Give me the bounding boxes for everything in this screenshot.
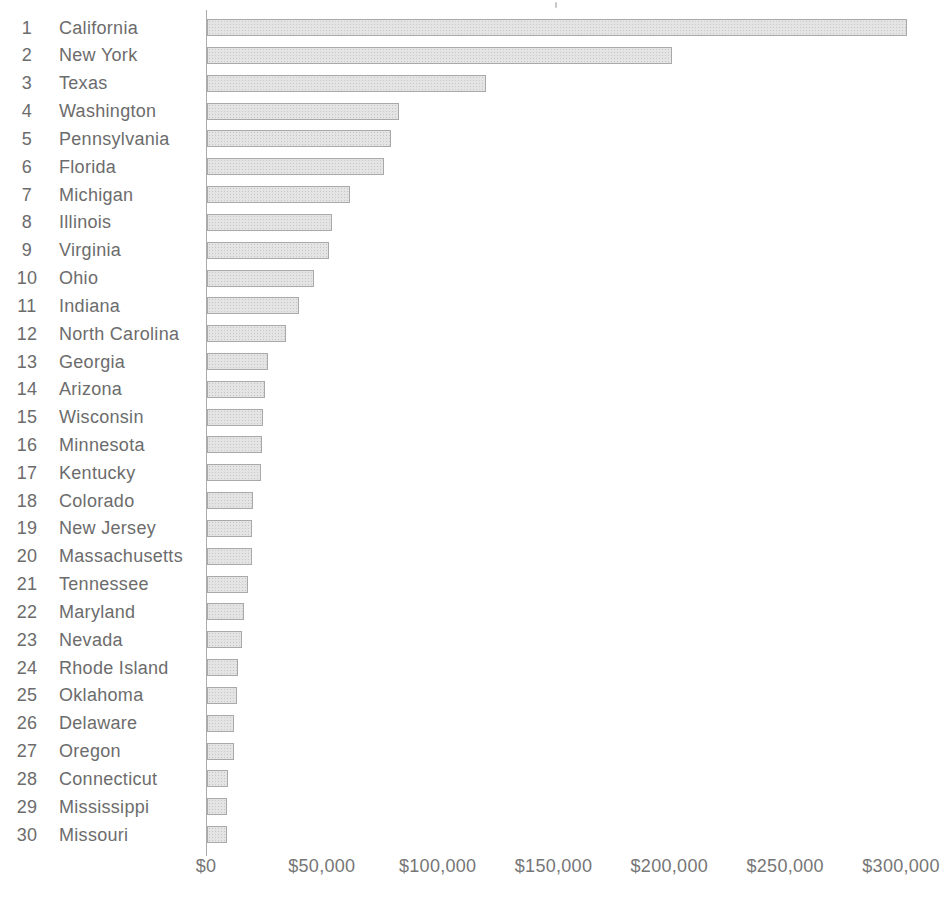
state-label: Maryland xyxy=(59,598,135,626)
chart-row: 5Pennsylvania xyxy=(0,125,948,153)
value-bar xyxy=(207,103,399,120)
chart-row: 6Florida xyxy=(0,153,948,181)
chart-row: 3Texas xyxy=(0,70,948,98)
chart-row: 27Oregon xyxy=(0,738,948,766)
state-label: Connecticut xyxy=(59,765,157,793)
x-axis-tick-label: $0 xyxy=(196,856,217,877)
rank-label: 14 xyxy=(8,376,46,404)
state-label: New York xyxy=(59,42,137,70)
chart-row: 19New Jersey xyxy=(0,515,948,543)
rank-label: 27 xyxy=(8,738,46,766)
state-label: Nevada xyxy=(59,626,123,654)
rank-label: 5 xyxy=(8,125,46,153)
rank-label: 30 xyxy=(8,821,46,849)
value-bar xyxy=(207,464,261,481)
value-bar xyxy=(207,297,299,314)
rank-label: 7 xyxy=(8,181,46,209)
state-label: Missouri xyxy=(59,821,128,849)
chart-row: 25Oklahoma xyxy=(0,682,948,710)
value-bar xyxy=(207,548,252,565)
value-bar xyxy=(207,576,248,593)
ranked-bar-chart: 1California2New York3Texas4Washington5Pe… xyxy=(0,0,948,899)
rank-label: 9 xyxy=(8,237,46,265)
value-bar xyxy=(207,214,332,231)
value-bar xyxy=(207,631,242,648)
rank-label: 18 xyxy=(8,487,46,515)
rank-label: 20 xyxy=(8,543,46,571)
rank-label: 13 xyxy=(8,348,46,376)
state-label: Oregon xyxy=(59,738,121,766)
rank-label: 23 xyxy=(8,626,46,654)
state-label: Arizona xyxy=(59,376,122,404)
value-bar xyxy=(207,158,384,175)
state-label: Michigan xyxy=(59,181,133,209)
value-bar xyxy=(207,353,268,370)
rank-label: 15 xyxy=(8,404,46,432)
rank-label: 8 xyxy=(8,209,46,237)
value-bar xyxy=(207,603,244,620)
state-label: Tennessee xyxy=(59,571,149,599)
value-bar xyxy=(207,798,227,815)
rank-label: 22 xyxy=(8,598,46,626)
chart-row: 30Missouri xyxy=(0,821,948,849)
state-label: Illinois xyxy=(59,209,111,237)
state-label: Colorado xyxy=(59,487,134,515)
state-label: New Jersey xyxy=(59,515,156,543)
chart-row: 10Ohio xyxy=(0,265,948,293)
state-label: Washington xyxy=(59,98,156,126)
state-label: Florida xyxy=(59,153,116,181)
chart-row: 13Georgia xyxy=(0,348,948,376)
chart-row: 22Maryland xyxy=(0,598,948,626)
value-bar xyxy=(207,436,262,453)
chart-row: 17Kentucky xyxy=(0,459,948,487)
x-axis-tick-labels: $0$50,000$100,000$150,000$200,000$250,00… xyxy=(0,856,948,886)
chart-row: 11Indiana xyxy=(0,292,948,320)
x-axis-tick-label: $50,000 xyxy=(288,856,355,877)
state-label: Oklahoma xyxy=(59,682,143,710)
x-axis-tick-label: $150,000 xyxy=(515,856,592,877)
value-bar xyxy=(207,826,227,843)
rank-label: 12 xyxy=(8,320,46,348)
state-label: Pennsylvania xyxy=(59,125,170,153)
state-label: Delaware xyxy=(59,710,137,738)
value-bar xyxy=(207,715,234,732)
scan-artifact-mark xyxy=(555,2,557,8)
rank-label: 10 xyxy=(8,265,46,293)
chart-row: 4Washington xyxy=(0,98,948,126)
rank-label: 26 xyxy=(8,710,46,738)
chart-row: 24Rhode Island xyxy=(0,654,948,682)
value-bar xyxy=(207,770,228,787)
state-label: Georgia xyxy=(59,348,125,376)
chart-row: 2New York xyxy=(0,42,948,70)
state-label: Mississippi xyxy=(59,793,149,821)
x-axis-tick-label: $300,000 xyxy=(862,856,939,877)
chart-row: 7Michigan xyxy=(0,181,948,209)
rank-label: 16 xyxy=(8,431,46,459)
state-label: Wisconsin xyxy=(59,404,144,432)
x-axis-tick-label: $250,000 xyxy=(746,856,823,877)
chart-row: 23Nevada xyxy=(0,626,948,654)
x-axis-tick-label: $100,000 xyxy=(399,856,476,877)
chart-row: 18Colorado xyxy=(0,487,948,515)
rank-label: 3 xyxy=(8,70,46,98)
value-bar xyxy=(207,659,238,676)
state-label: Rhode Island xyxy=(59,654,169,682)
chart-row: 15Wisconsin xyxy=(0,404,948,432)
state-label: Kentucky xyxy=(59,459,135,487)
value-bar xyxy=(207,186,350,203)
rank-label: 11 xyxy=(8,292,46,320)
state-label: Indiana xyxy=(59,292,120,320)
rank-label: 25 xyxy=(8,682,46,710)
chart-row: 1California xyxy=(0,14,948,42)
rank-label: 19 xyxy=(8,515,46,543)
rank-label: 28 xyxy=(8,765,46,793)
state-label: Texas xyxy=(59,70,108,98)
value-bar xyxy=(207,75,486,92)
state-label: Minnesota xyxy=(59,431,145,459)
chart-row: 9Virginia xyxy=(0,237,948,265)
value-bar xyxy=(207,409,263,426)
chart-row: 8Illinois xyxy=(0,209,948,237)
state-label: Massachusetts xyxy=(59,543,183,571)
value-bar xyxy=(207,520,252,537)
value-bar xyxy=(207,242,329,259)
